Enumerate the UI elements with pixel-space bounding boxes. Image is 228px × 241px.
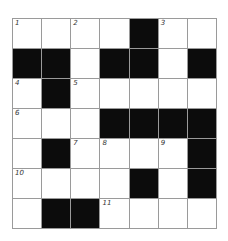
clue-number: 7 bbox=[73, 139, 77, 148]
clue-number: 8 bbox=[102, 139, 106, 148]
crossword-cell[interactable] bbox=[71, 169, 99, 198]
clue-number: 6 bbox=[15, 109, 19, 118]
crossword-cell[interactable] bbox=[42, 109, 70, 138]
crossword-cell[interactable] bbox=[100, 169, 128, 198]
crossword-cell[interactable] bbox=[13, 199, 41, 228]
crossword-cell[interactable] bbox=[42, 19, 70, 48]
black-square bbox=[100, 49, 128, 78]
clue-number: 9 bbox=[161, 139, 165, 148]
crossword-cell[interactable] bbox=[100, 79, 128, 108]
crossword-cell[interactable]: 7 bbox=[71, 139, 99, 168]
black-square bbox=[188, 49, 216, 78]
crossword-cell[interactable] bbox=[13, 139, 41, 168]
crossword-cell[interactable] bbox=[71, 49, 99, 78]
crossword-cell[interactable] bbox=[71, 109, 99, 138]
crossword-cell[interactable] bbox=[188, 199, 216, 228]
black-square bbox=[130, 109, 158, 138]
crossword-cell[interactable] bbox=[188, 19, 216, 48]
black-square bbox=[188, 109, 216, 138]
black-square bbox=[130, 49, 158, 78]
clue-number: 4 bbox=[15, 79, 19, 88]
crossword-cell[interactable]: 3 bbox=[159, 19, 187, 48]
crossword-cell[interactable]: 9 bbox=[159, 139, 187, 168]
crossword-cell[interactable] bbox=[130, 79, 158, 108]
clue-number: 10 bbox=[15, 169, 24, 178]
crossword-cell[interactable] bbox=[188, 79, 216, 108]
black-square bbox=[71, 199, 99, 228]
crossword-cell[interactable]: 2 bbox=[71, 19, 99, 48]
black-square bbox=[100, 109, 128, 138]
crossword-cell[interactable] bbox=[159, 199, 187, 228]
crossword-cell[interactable] bbox=[130, 139, 158, 168]
crossword-cell[interactable] bbox=[159, 79, 187, 108]
crossword-cell[interactable] bbox=[159, 169, 187, 198]
crossword-cell[interactable] bbox=[42, 169, 70, 198]
black-square bbox=[159, 109, 187, 138]
black-square bbox=[42, 49, 70, 78]
black-square bbox=[130, 169, 158, 198]
crossword-cell[interactable]: 8 bbox=[100, 139, 128, 168]
crossword-cell[interactable] bbox=[159, 49, 187, 78]
crossword-cell[interactable] bbox=[100, 19, 128, 48]
black-square bbox=[188, 139, 216, 168]
black-square bbox=[130, 19, 158, 48]
crossword-grid: 1234567891011 bbox=[12, 18, 217, 229]
black-square bbox=[42, 199, 70, 228]
clue-number: 2 bbox=[73, 19, 77, 28]
black-square bbox=[42, 139, 70, 168]
crossword-cell[interactable]: 1 bbox=[13, 19, 41, 48]
crossword-cell[interactable]: 4 bbox=[13, 79, 41, 108]
black-square bbox=[13, 49, 41, 78]
crossword-cell[interactable]: 10 bbox=[13, 169, 41, 198]
black-square bbox=[42, 79, 70, 108]
crossword-cell[interactable]: 11 bbox=[100, 199, 128, 228]
crossword-cell[interactable]: 5 bbox=[71, 79, 99, 108]
black-square bbox=[188, 169, 216, 198]
clue-number: 1 bbox=[15, 19, 19, 28]
crossword-cell[interactable]: 6 bbox=[13, 109, 41, 138]
clue-number: 11 bbox=[102, 199, 111, 208]
clue-number: 5 bbox=[73, 79, 77, 88]
clue-number: 3 bbox=[161, 19, 165, 28]
crossword-cell[interactable] bbox=[130, 199, 158, 228]
